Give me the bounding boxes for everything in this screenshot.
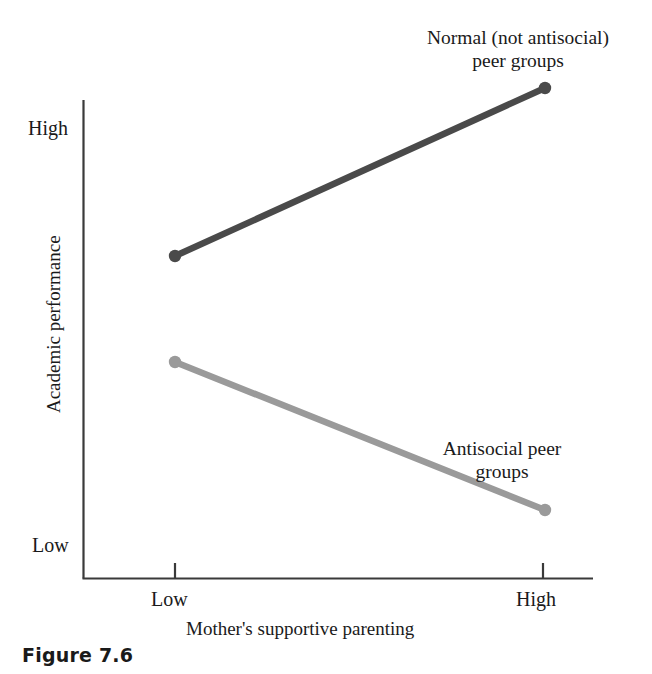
series-annotation-normal: Normal (not antisocial) peer groups bbox=[392, 26, 644, 73]
figure-caption: Figure 7.6 bbox=[22, 644, 133, 666]
series-annotation-normal-line2: peer groups bbox=[392, 49, 644, 72]
x-axis-tick-label-low: Low bbox=[151, 588, 188, 612]
y-axis-title: Academic performance bbox=[43, 224, 65, 424]
series-point-normal-low bbox=[169, 250, 181, 262]
y-axis-tick-label-low: Low bbox=[32, 534, 69, 558]
series-annotation-normal-line1: Normal (not antisocial) bbox=[392, 26, 644, 49]
series-point-normal-high bbox=[539, 82, 551, 94]
chart-plot-area bbox=[0, 0, 652, 674]
series-annotation-antisocial: Antisocial peer groups bbox=[408, 437, 596, 484]
line-chart-svg bbox=[0, 0, 652, 674]
series-annotation-antisocial-line1: Antisocial peer bbox=[408, 437, 596, 460]
x-axis-title: Mother's supportive parenting bbox=[186, 618, 414, 640]
figure-container: High Low Academic performance Low High M… bbox=[0, 0, 652, 674]
series-annotation-antisocial-line2: groups bbox=[408, 460, 596, 483]
series-point-antisocial-high bbox=[539, 504, 551, 516]
series-line-antisocial bbox=[175, 362, 545, 510]
x-axis-tick-label-high: High bbox=[516, 588, 556, 612]
series-point-antisocial-low bbox=[169, 356, 181, 368]
y-axis-tick-label-high: High bbox=[28, 117, 68, 141]
series-line-normal bbox=[175, 88, 545, 256]
